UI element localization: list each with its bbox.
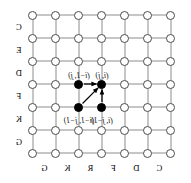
lattice-node	[121, 126, 130, 135]
lattice-node	[167, 57, 176, 66]
lattice-node	[121, 80, 130, 89]
lattice-node	[167, 103, 176, 112]
lattice-node	[121, 103, 130, 112]
lattice-node	[98, 34, 107, 43]
bottom-axis-letter-2: F	[111, 163, 116, 173]
lattice-nodes-layer: (i, j)(i−1, j)(i, j−1)(i−1, j−1)CEDFKGCD…	[0, 0, 191, 183]
mirrored-diagram-group: (i, j)(i−1, j)(i, j−1)(i−1, j−1)CEDFKGCD…	[0, 0, 191, 183]
right-axis-letter-5: G	[16, 137, 22, 147]
lattice-node	[144, 126, 153, 135]
right-axis-letter-1: E	[16, 45, 21, 55]
lattice-node-cell-im1-j	[75, 80, 84, 89]
lattice-node	[75, 149, 84, 158]
lattice-node	[144, 80, 153, 89]
lattice-node	[29, 149, 38, 158]
lattice-node	[52, 126, 61, 135]
lattice-node	[29, 80, 38, 89]
lattice-node-cell-im1-jm1	[75, 103, 84, 112]
lattice-node	[29, 34, 38, 43]
label-i-j: (i, j)	[96, 71, 109, 80]
lattice-node	[144, 103, 153, 112]
lattice-node	[29, 11, 38, 20]
right-axis-letter-3: F	[17, 91, 22, 101]
lattice-node	[52, 80, 61, 89]
label-i-jm1: (i, j−1)	[91, 116, 113, 125]
lattice-node-cell-i-j	[98, 80, 107, 89]
lattice-node	[52, 149, 61, 158]
figure-canvas: (i, j)(i−1, j)(i, j−1)(i−1, j−1)CEDFKGCD…	[0, 0, 191, 183]
lattice-node	[29, 57, 38, 66]
lattice-node	[121, 149, 130, 158]
label-im1-jm1: (i−1, j−1)	[64, 116, 95, 125]
lattice-node	[52, 11, 61, 20]
lattice-node	[98, 11, 107, 20]
lattice-node	[167, 149, 176, 158]
lattice-node	[98, 57, 107, 66]
bottom-axis-letter-4: K	[64, 163, 70, 173]
lattice-node	[52, 103, 61, 112]
bottom-axis-letter-0: C	[157, 163, 163, 173]
lattice-node	[144, 57, 153, 66]
lattice-node	[75, 57, 84, 66]
bottom-axis-letter-3: R	[88, 163, 94, 173]
lattice-node	[29, 103, 38, 112]
lattice-node	[75, 126, 84, 135]
right-axis-letter-2: D	[16, 68, 22, 78]
bottom-axis-letter-1: D	[133, 163, 139, 173]
lattice-node	[167, 11, 176, 20]
lattice-node	[144, 149, 153, 158]
lattice-node	[121, 11, 130, 20]
lattice-node	[121, 34, 130, 43]
lattice-node	[144, 11, 153, 20]
bottom-axis-letter-5: G	[41, 163, 47, 173]
lattice-node	[52, 34, 61, 43]
lattice-node	[144, 34, 153, 43]
lattice-node	[167, 126, 176, 135]
lattice-node	[121, 57, 130, 66]
lattice-node	[167, 34, 176, 43]
lattice-node	[52, 57, 61, 66]
lattice-node	[98, 149, 107, 158]
lattice-node	[98, 126, 107, 135]
lattice-node-cell-i-jm1	[98, 103, 107, 112]
right-axis-letter-4: K	[16, 114, 22, 124]
lattice-node	[75, 34, 84, 43]
lattice-node	[167, 80, 176, 89]
right-axis-letter-0: C	[16, 22, 22, 32]
lattice-node	[75, 11, 84, 20]
lattice-node	[29, 126, 38, 135]
label-im1-j: (i−1, j)	[68, 71, 90, 80]
